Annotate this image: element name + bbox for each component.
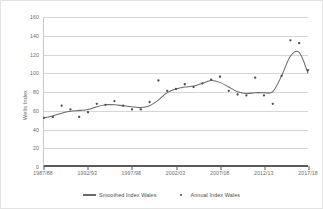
data-point [43,117,45,119]
legend-label-smoothed: Smoothed Index Wales [99,192,157,198]
smoothed-index-line [44,51,308,118]
y-tick-label: 160 [30,14,39,20]
x-tick-label: 2007/08 [210,170,229,176]
annual-index-points [43,39,309,119]
data-point [140,108,142,110]
data-point [201,82,203,84]
data-point [60,105,62,107]
y-tick-label: 100 [30,70,39,76]
y-tick-label: 40 [33,127,39,133]
y-tick-label: 60 [33,108,39,114]
data-layer [44,17,308,166]
data-point [298,42,300,44]
data-point [263,94,265,96]
data-point [131,108,133,110]
data-point [52,116,54,118]
x-tick-label: 2002/03 [166,170,185,176]
x-tick-label: 1997/98 [122,170,141,176]
plot-wrap: 020406080100120140160 1987/881992/931997… [43,17,308,167]
data-point [192,86,194,88]
plot-area [43,17,308,167]
legend-item-annual: Annual Index Wales [175,192,241,198]
data-point [289,39,291,41]
x-tick-label: 1987/88 [33,170,52,176]
data-point [280,75,282,77]
data-point [166,90,168,92]
data-point [87,111,89,113]
y-tick-label: 140 [30,33,39,39]
x-tick-label: 1992/93 [77,170,96,176]
legend-line-icon [83,194,96,195]
data-point [69,108,71,110]
chart-card: Wells Index 020406080100120140160 1987/8… [0,0,323,209]
legend-dot-icon [180,194,182,196]
y-tick-label: 120 [30,52,39,58]
data-point [122,105,124,107]
x-tick-label: 2012/13 [254,170,273,176]
data-point [96,103,98,105]
data-point [148,101,150,103]
data-point [245,94,247,96]
data-point [78,116,80,118]
y-tick-label: 80 [33,89,39,95]
data-point [254,77,256,79]
data-point [157,79,159,81]
data-point [228,90,230,92]
data-point [184,83,186,85]
data-point [219,76,221,78]
chart-legend: Smoothed Index Wales Annual Index Wales [1,192,322,198]
legend-label-annual: Annual Index Wales [191,192,241,198]
x-tick-label: 2017/18 [298,170,317,176]
data-point [272,103,274,105]
legend-item-smoothed: Smoothed Index Wales [83,192,157,198]
y-tick-label: 20 [33,145,39,151]
y-axis-title: Wells Index [22,90,28,120]
data-point [113,100,115,102]
data-point [210,78,212,80]
data-point [175,88,177,90]
data-point [307,69,309,71]
data-point [236,93,238,95]
data-point [104,104,106,106]
